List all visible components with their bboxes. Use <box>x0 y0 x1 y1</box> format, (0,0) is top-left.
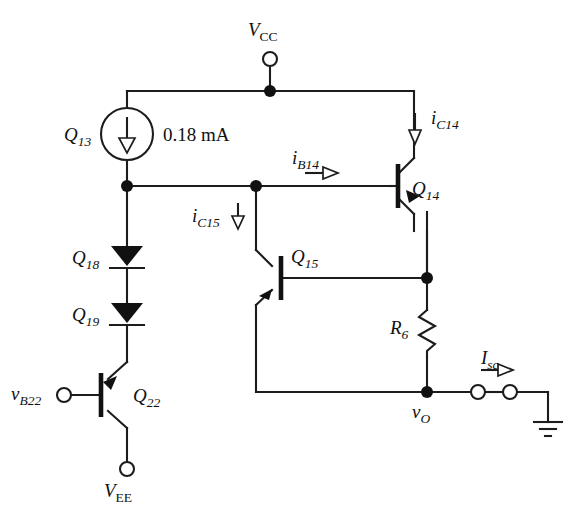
label-vb22: vB22 <box>11 383 41 408</box>
node-dot-b <box>250 180 262 192</box>
terminal-vb22[interactable] <box>57 388 71 402</box>
wire-q22-collector-slant <box>108 411 127 428</box>
label-isc: Isc <box>480 347 499 372</box>
terminal-vee[interactable] <box>120 462 134 476</box>
ic14-arrow-icon <box>409 130 421 144</box>
circuit-schematic: VCC Q13 0.18 mA iC14 iB14 Q14 iC15 Q15 Q… <box>0 0 577 521</box>
terminal-sc-right[interactable] <box>503 385 517 399</box>
label-vee: VEE <box>104 480 132 505</box>
wire-q22-emitter-lead <box>108 362 127 379</box>
label-q13: Q13 <box>64 124 91 149</box>
label-ic15: iC15 <box>192 205 220 230</box>
node-dot-vcc-rail <box>264 85 276 97</box>
node-dot-vo <box>421 386 433 398</box>
ib14-arrow-icon <box>323 167 338 179</box>
q15-emitter-arrow-icon <box>259 289 272 300</box>
label-q19: Q19 <box>72 304 99 329</box>
terminal-sc-left[interactable] <box>471 385 485 399</box>
label-q13-value: 0.18 mA <box>163 124 230 145</box>
label-q22: Q22 <box>133 385 160 410</box>
ic15-arrow-icon <box>232 216 244 229</box>
node-dot-r6-top <box>421 272 433 284</box>
wire-q15-collector-slant <box>256 250 272 266</box>
terminal-vcc[interactable] <box>263 52 277 66</box>
label-vcc: VCC <box>248 19 278 44</box>
label-r6: R6 <box>389 317 409 342</box>
wire-q14-collector-slant <box>398 158 414 174</box>
diode-q18-triangle-icon <box>111 246 143 266</box>
diode-q19-triangle-icon <box>111 303 143 323</box>
circuit-canvas: VCC Q13 0.18 mA iC14 iB14 Q14 iC15 Q15 Q… <box>0 0 577 521</box>
label-q14: Q14 <box>412 178 439 203</box>
isc-arrow-icon <box>498 364 513 376</box>
resistor-r6-zigzag <box>419 310 435 357</box>
label-q18: Q18 <box>72 247 99 272</box>
label-q15: Q15 <box>291 246 318 271</box>
label-ic14: iC14 <box>431 107 459 132</box>
node-dot-a <box>121 180 133 192</box>
label-ib14: iB14 <box>292 147 319 172</box>
label-vo: vO <box>412 401 430 426</box>
